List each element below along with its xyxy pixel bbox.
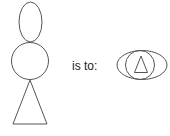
top-ellipse-shape [19, 2, 42, 42]
inner-triangle-shape [135, 56, 148, 73]
inner-circle-shape [126, 51, 155, 80]
bottom-triangle-shape [13, 80, 47, 124]
middle-circle-shape [12, 43, 49, 80]
relation-label: is to: [72, 59, 97, 73]
outer-ellipse-shape [117, 51, 167, 80]
right-figure [117, 51, 167, 80]
left-figure [12, 2, 49, 124]
